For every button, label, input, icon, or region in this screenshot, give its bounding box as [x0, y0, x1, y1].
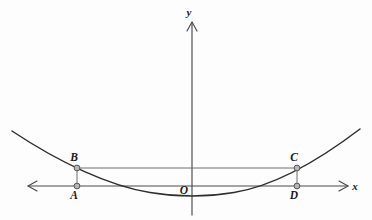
- point-c-marker: [294, 165, 300, 171]
- point-d-label: D: [289, 189, 299, 201]
- point-b-label: B: [69, 151, 78, 163]
- figure-canvas: y x O B A C D: [0, 0, 372, 220]
- geometry-figure: y x O B A C D: [0, 0, 372, 220]
- point-c-label: C: [290, 151, 298, 163]
- point-b-marker: [74, 165, 80, 171]
- y-axis-label: y: [185, 6, 192, 18]
- point-a-label: A: [69, 189, 78, 201]
- origin-label: O: [180, 184, 188, 196]
- x-axis-label: x: [351, 180, 358, 192]
